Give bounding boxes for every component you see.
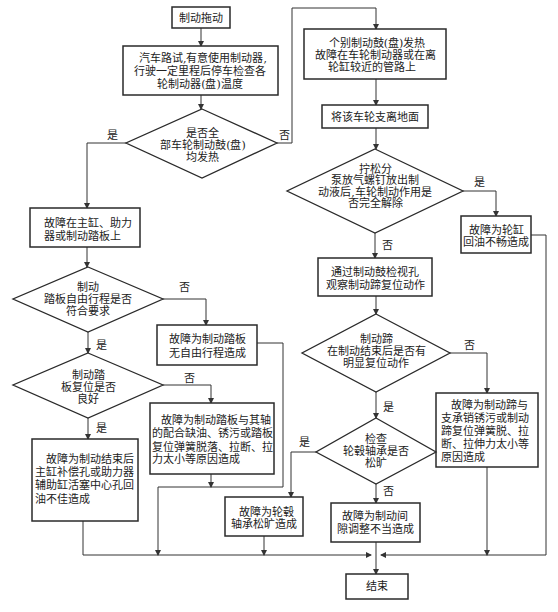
node-wheel-cylinder-fault: 故障为轮缸 回油不畅造成 xyxy=(461,216,531,253)
decision-pedal-return: 制动踏 板复位是否 良好 xyxy=(13,353,163,418)
label-all-hot-yes: 是 xyxy=(107,129,118,142)
node-clearance-fault: 故障为制动间 隙调整不当造成 xyxy=(331,503,420,542)
arrow-bearing-yes xyxy=(291,452,316,497)
node-end: 结束 xyxy=(346,574,408,599)
node-bearing-fault: 故障为轮毂 轴承松旷造成 xyxy=(225,497,303,536)
node-shoe-fault: 故障为制动蹄与 支承销锈污或制动 蹄复位弹簧脱、拉 断、拉伸力太小等 原因造成 xyxy=(436,393,538,467)
node-text: 故障为制动踏板与其轴 xyxy=(161,413,271,427)
node-text: 汽车路试,有意使用制动器, xyxy=(139,51,267,65)
node-text: 故障为制动结束后 xyxy=(46,452,134,466)
node-text: 在制动结束后是否有 xyxy=(327,344,426,358)
node-text: 断、拉伸力太小等 xyxy=(441,437,529,451)
label-bearing-no: 否 xyxy=(383,485,394,498)
node-text: 无自由行程造成 xyxy=(169,346,246,360)
node-text: 松旷 xyxy=(365,456,387,470)
node-text: 板复位是否 xyxy=(61,380,116,394)
node-text: 蹄复位弹簧脱、拉 xyxy=(441,424,529,438)
node-text: 制动踏 xyxy=(72,368,105,382)
node-text: 符合要求 xyxy=(66,304,110,318)
node-text: 制动拖动 xyxy=(179,11,223,25)
node-text: 故障为轮缸 xyxy=(469,223,524,237)
node-text: 辅助缸活塞中心孔回 xyxy=(35,478,134,492)
node-text: 将该车轮支离地面 xyxy=(331,110,419,124)
node-text: 油不佳造成 xyxy=(35,492,90,506)
flowchart-diagram: 制动拖动 汽车路试,有意使用制动器, 行驶一定里程后停车检查各 轮制动器(盘)温… xyxy=(0,0,558,612)
node-text: 踏板自由行程是否 xyxy=(44,292,132,306)
label-bleed-no: 否 xyxy=(382,239,393,252)
decision-bearing-check: 检查 轮毂轴承是否 松旷 xyxy=(316,418,436,484)
label-pedal-return-no: 否 xyxy=(184,372,195,385)
label-shoe-return-no: 否 xyxy=(464,339,475,352)
arrow-free-travel-no xyxy=(163,299,206,325)
node-observe-shoe: 通过制动鼓检视孔 观察制动蹄复位动作 xyxy=(318,258,432,296)
node-text: 行驶一定里程后停车检查各 xyxy=(134,64,266,78)
node-text: 泵放气螺钉放出制 xyxy=(331,173,419,187)
node-text: 回油不畅造成 xyxy=(463,235,529,249)
node-text: 故障为轮毂 xyxy=(239,505,294,519)
label-free-travel-yes: 是 xyxy=(96,339,107,352)
node-text: 良好 xyxy=(77,392,99,406)
node-text: 轴承松旷造成 xyxy=(231,517,297,531)
flowchart-canvas: 制动拖动 汽车路试,有意使用制动器, 行驶一定里程后停车检查各 轮制动器(盘)温… xyxy=(0,0,558,612)
node-text: 力太小等原因造成 xyxy=(152,452,240,466)
node-text: 结束 xyxy=(366,580,388,593)
node-master-booster-pedal: 故障在主缸、助力 器或制动踏板上 xyxy=(30,208,140,247)
label-bleed-yes: 是 xyxy=(474,176,485,189)
node-text: 故障为制动踏板 xyxy=(169,332,246,346)
node-text: 通过制动鼓检视孔 xyxy=(331,265,419,279)
node-no-free-travel: 故障为制动踏板 无自由行程造成 xyxy=(157,325,257,365)
label-all-hot-no: 否 xyxy=(279,129,290,142)
node-text: 的配合缺油、锈污或踏板 xyxy=(152,426,273,440)
decision-shoe-return: 制动蹄 在制动结束后是否有 明显复位动作 xyxy=(302,314,450,392)
node-text: 器或制动踏板上 xyxy=(44,229,121,243)
decision-pedal-free-travel: 制动 踏板自由行程是否 符合要求 xyxy=(13,267,163,332)
node-lift-wheel: 将该车轮支离地面 xyxy=(322,105,428,128)
label-free-travel-no: 否 xyxy=(179,281,190,294)
label-shoe-return-yes: 是 xyxy=(383,401,394,414)
node-text: 检查 xyxy=(365,432,387,446)
node-individual-hot: 个别制动鼓(盘)发热 故障在车轮制动器或在离 轮缸较近的管路上 xyxy=(304,29,446,79)
node-text: 隙调整不当造成 xyxy=(337,522,414,536)
decision-bleed-check: 拧松分 泵放气螺钉放出制 动液后,车轮制动作用是 否完全解除 xyxy=(287,149,463,233)
node-road-test: 汽车路试,有意使用制动器, 行驶一定里程后停车检查各 轮制动器(盘)温度 xyxy=(123,46,278,95)
node-pedal-axis-fault: 故障为制动踏板与其轴 的配合缺油、锈污或踏板 复位弹簧脱落、拉断、拉 力太小等原… xyxy=(150,403,274,474)
label-pedal-return-yes: 是 xyxy=(96,422,107,435)
node-text: 轮缸较近的管路上 xyxy=(328,60,416,74)
node-text: 支承销锈污或制动 xyxy=(441,411,529,425)
arrow-shoe-return-no xyxy=(450,353,487,393)
node-text: 复位弹簧脱落、拉断、拉 xyxy=(152,440,273,454)
arrow-pedal-return-no xyxy=(163,385,211,403)
node-text: 制动蹄 xyxy=(360,332,393,346)
node-start: 制动拖动 xyxy=(172,7,230,28)
node-text: 轮毂轴承是否 xyxy=(343,444,409,458)
node-text: 主缸补偿孔或助力器 xyxy=(35,465,134,479)
node-text: 是否全 xyxy=(186,126,219,140)
node-text: 明显复位动作 xyxy=(343,356,409,370)
decision-all-hot: 是否全 部车轮制动鼓(盘) 均发热 xyxy=(126,109,277,178)
arrow-all-hot-yes xyxy=(87,143,126,208)
node-text: 轮制动器(盘)温度 xyxy=(157,77,243,91)
node-text: 故障为制动蹄与 xyxy=(451,398,528,412)
node-text: 故障为制动间 xyxy=(342,509,408,523)
node-text: 否完全解除 xyxy=(348,196,403,210)
node-text: 观察制动蹄复位动作 xyxy=(326,278,425,292)
node-master-return-fault: 故障为制动结束后 主缸补偿孔或助力器 辅助缸活塞中心孔回 油不佳造成 xyxy=(32,439,138,521)
label-bearing-yes: 是 xyxy=(299,436,310,449)
node-text: 个别制动鼓(盘)发热 xyxy=(329,36,426,50)
node-text: 原因造成 xyxy=(441,450,485,464)
node-text: 故障在主缸、助力 xyxy=(44,216,132,230)
arrow-bleed-yes xyxy=(463,191,496,216)
node-text: 均发热 xyxy=(186,150,219,164)
node-text: 部车轮制动鼓(盘) xyxy=(160,138,246,152)
node-text: 故障在车轮制动器或在离 xyxy=(315,48,436,62)
